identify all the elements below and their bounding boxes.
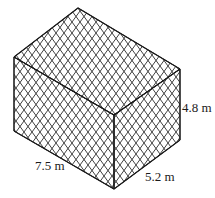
- prism-diagram: 4.8 m 7.5 m 5.2 m: [0, 0, 215, 198]
- width-label: 5.2 m: [145, 169, 175, 184]
- height-label: 4.8 m: [182, 100, 212, 115]
- length-label: 7.5 m: [35, 158, 65, 173]
